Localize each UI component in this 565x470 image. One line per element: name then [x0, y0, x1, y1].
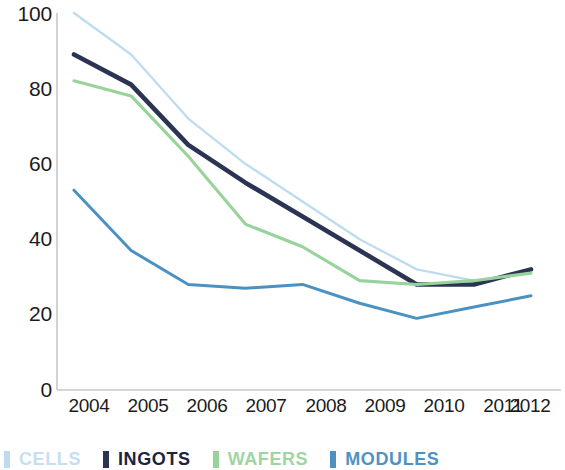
x-tick-2010: 2010	[414, 396, 474, 415]
x-tick-2004: 2004	[59, 396, 119, 415]
legend-label-wafers: WAFERS	[228, 450, 309, 468]
x-tick-2005: 2005	[118, 396, 178, 415]
line-chart: 100 80 60 40 20 0 2004 2005 2006 2007 20…	[0, 0, 565, 470]
x-tick-2006: 2006	[177, 396, 237, 415]
series-lines	[74, 13, 531, 318]
x-tick-2007: 2007	[236, 396, 296, 415]
series-line-cells	[74, 13, 531, 281]
y-tick-60: 60	[6, 153, 52, 174]
legend-item-ingots[interactable]: INGOTS	[103, 450, 191, 468]
x-tick-2012: 2012	[500, 396, 560, 415]
legend-item-cells[interactable]: CELLS	[4, 450, 81, 468]
series-line-ingots	[74, 54, 531, 284]
legend-swatch-wafers-icon	[213, 451, 219, 468]
series-line-wafers	[74, 81, 531, 285]
legend-label-ingots: INGOTS	[118, 450, 191, 468]
y-tick-40: 40	[6, 228, 52, 249]
legend-item-modules[interactable]: MODULES	[330, 450, 439, 468]
x-axis-labels: 2004 2005 2006 2007 2008 2009 2010 2011 …	[0, 396, 565, 426]
legend-label-modules: MODULES	[345, 450, 439, 468]
legend-swatch-cells-icon	[4, 451, 10, 468]
series-line-modules	[74, 190, 531, 318]
y-tick-100: 100	[6, 3, 52, 24]
y-tick-20: 20	[6, 303, 52, 324]
x-tick-2009: 2009	[355, 396, 415, 415]
x-tick-2008: 2008	[296, 396, 356, 415]
legend-item-wafers[interactable]: WAFERS	[213, 450, 309, 468]
legend-label-cells: CELLS	[19, 450, 81, 468]
legend-swatch-ingots-icon	[103, 451, 109, 468]
chart-legend: CELLS INGOTS WAFERS MODULES	[4, 446, 461, 470]
legend-swatch-modules-icon	[330, 451, 336, 468]
y-tick-80: 80	[6, 78, 52, 99]
